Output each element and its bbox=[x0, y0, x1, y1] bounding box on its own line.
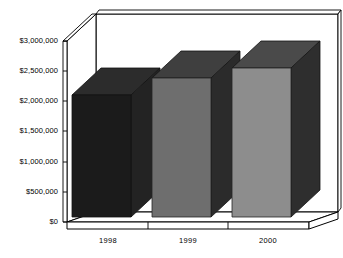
bar-2000-side bbox=[291, 41, 320, 217]
y-tick-label-1500000: $1,500,000 bbox=[0, 127, 58, 135]
y-tick-label-1000000: $1,000,000 bbox=[0, 158, 58, 166]
y-tick-label-2500000: $2,500,000 bbox=[0, 67, 58, 75]
x-tick-label-1999: 1999 bbox=[158, 236, 218, 245]
y-tick-label-2000000: $2,000,000 bbox=[0, 97, 58, 105]
bar-1999[interactable] bbox=[152, 51, 240, 217]
bar-1998-front bbox=[72, 95, 131, 217]
bar-1999-front bbox=[152, 78, 211, 217]
x-tick-label-1998: 1998 bbox=[78, 236, 138, 245]
bar-2000-front bbox=[232, 68, 291, 217]
bar-2000[interactable] bbox=[232, 41, 320, 217]
y-tick-label-0: $0 bbox=[0, 218, 58, 226]
bar-chart: $3,000,000 $2,500,000 $2,000,000 $1,500,… bbox=[0, 0, 343, 258]
x-tick-label-2000: 2000 bbox=[238, 236, 298, 245]
bar-1998[interactable] bbox=[72, 68, 160, 217]
y-tick-label-500000: $500,000 bbox=[0, 188, 58, 196]
y-axis-labels: $3,000,000 $2,500,000 $2,000,000 $1,500,… bbox=[0, 0, 58, 258]
y-tick-label-3000000: $3,000,000 bbox=[0, 37, 58, 45]
